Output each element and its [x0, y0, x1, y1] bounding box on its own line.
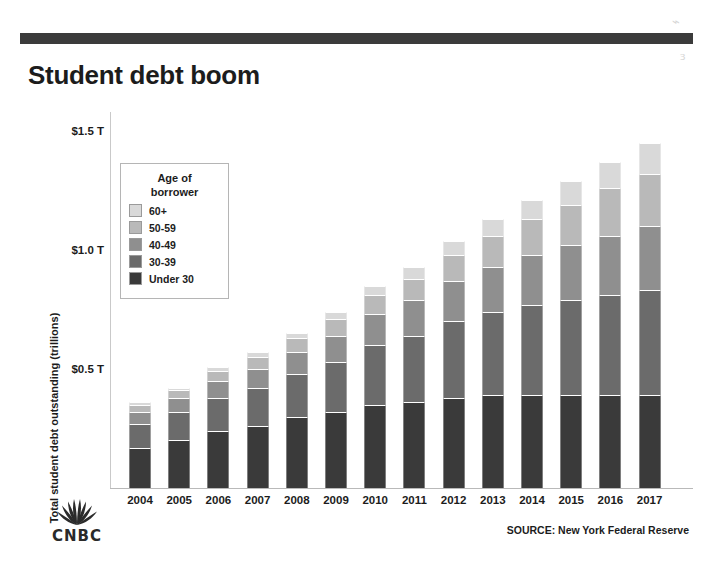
bar-segment [286, 374, 308, 417]
bar-segment [560, 205, 582, 245]
bar-segment [286, 417, 308, 488]
bar-segment [521, 305, 543, 395]
bar-segment [247, 369, 269, 388]
legend-item-label: 60+ [149, 205, 167, 217]
bar-segment [560, 395, 582, 488]
legend-item[interactable]: 50-59 [129, 221, 220, 234]
legend-item[interactable]: 60+ [129, 204, 220, 217]
bar-segment [168, 398, 190, 412]
chart-page: { "title": "Student debt boom", "source"… [0, 0, 713, 569]
x-tick-label: 2017 [627, 494, 673, 506]
y-tick-label: $0.5 T [34, 363, 104, 375]
bar-segment [247, 388, 269, 426]
bar-segment [482, 267, 504, 312]
bar-segment [286, 352, 308, 373]
bar-segment [521, 255, 543, 305]
bar-segment [599, 162, 621, 188]
bar-column [364, 286, 386, 488]
x-axis-labels: 2004200520062007200820092010201120122013… [110, 494, 693, 512]
bar-segment [639, 174, 661, 226]
legend-swatch-icon [129, 221, 142, 234]
chart-legend: Age of borrower 60+50-5940-4930-39Under … [120, 163, 229, 299]
bar-segment [599, 188, 621, 236]
bar-segment [325, 412, 347, 488]
legend-title: Age of borrower [129, 171, 220, 199]
bar-segment [403, 279, 425, 300]
legend-item-label: 50-59 [149, 222, 176, 234]
bar-segment [639, 290, 661, 395]
bar-segment [560, 181, 582, 205]
legend-item[interactable]: Under 30 [129, 272, 220, 285]
bar-segment [639, 395, 661, 488]
bar-segment [560, 300, 582, 395]
bar-segment [443, 255, 465, 281]
bar-segment [286, 338, 308, 352]
bar-segment [364, 405, 386, 488]
bar-segment [325, 319, 347, 336]
bar-segment [482, 236, 504, 267]
bar-segment [482, 395, 504, 488]
bar-segment [129, 405, 151, 412]
legend-item[interactable]: 30-39 [129, 255, 220, 268]
bar-column [521, 200, 543, 488]
bar-segment [521, 200, 543, 219]
bar-column [168, 388, 190, 488]
source-note: SOURCE: New York Federal Reserve [507, 524, 689, 536]
bar-column [325, 312, 347, 488]
bar-column [482, 219, 504, 488]
legend-item-label: 30-39 [149, 256, 176, 268]
bar-segment [325, 312, 347, 319]
bar-segment [639, 143, 661, 174]
bar-segment [599, 236, 621, 295]
bar-segment [207, 371, 229, 381]
bar-segment [599, 395, 621, 488]
scan-artifact-1: ⌁ [672, 14, 680, 30]
bar-segment [403, 267, 425, 279]
bar-segment [129, 424, 151, 448]
y-tick-label: $1.5 T [34, 125, 104, 137]
legend-swatch-icon [129, 204, 142, 217]
bar-segment [364, 345, 386, 404]
legend-title-line2: borrower [151, 186, 199, 198]
bar-column [286, 333, 308, 488]
legend-title-line1: Age of [157, 172, 191, 184]
legend-item-label: Under 30 [149, 273, 194, 285]
bar-segment [364, 295, 386, 314]
bar-segment [168, 440, 190, 488]
bar-column [247, 352, 269, 488]
bar-segment [482, 219, 504, 236]
legend-item[interactable]: 40-49 [129, 238, 220, 251]
bar-column [639, 143, 661, 488]
x-axis-line [110, 488, 693, 489]
cnbc-peacock-icon [50, 496, 104, 526]
page-title: Student debt boom [28, 60, 260, 91]
bar-segment [325, 362, 347, 412]
bar-segment [443, 241, 465, 255]
bar-segment [168, 412, 190, 441]
scan-artifact-2: ɜ [680, 48, 685, 64]
bar-segment [639, 226, 661, 290]
bar-column [403, 267, 425, 488]
legend-item-label: 40-49 [149, 239, 176, 251]
cnbc-wordmark: CNBC [34, 527, 120, 545]
bar-segment [521, 219, 543, 255]
bar-segment [443, 321, 465, 397]
legend-items: 60+50-5940-4930-39Under 30 [129, 204, 220, 285]
bar-segment [403, 336, 425, 403]
bar-column [443, 241, 465, 488]
bar-column [129, 402, 151, 488]
y-axis-ticks: Total student debt outstanding (trillion… [32, 112, 104, 489]
bar-column [599, 162, 621, 488]
bar-segment [443, 398, 465, 488]
bar-segment [207, 381, 229, 398]
bar-segment [207, 398, 229, 431]
bar-column [207, 367, 229, 488]
y-tick-label: $1.0 T [34, 244, 104, 256]
bar-column [560, 181, 582, 488]
bar-segment [403, 402, 425, 488]
legend-swatch-icon [129, 255, 142, 268]
bar-segment [443, 281, 465, 321]
bar-segment [521, 395, 543, 488]
bar-segment [247, 426, 269, 488]
bar-segment [129, 412, 151, 424]
